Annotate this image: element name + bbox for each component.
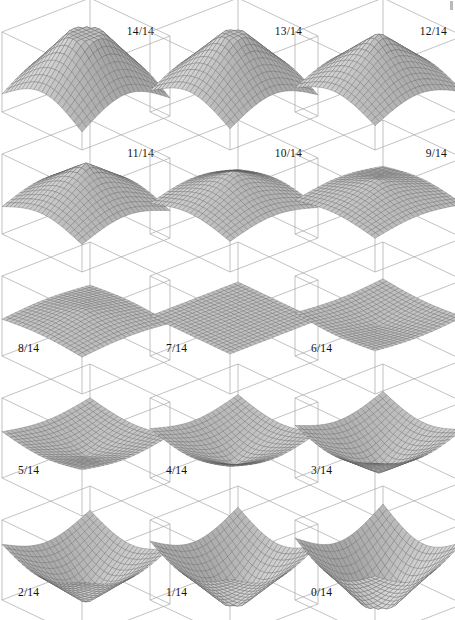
panel-label: 9/14 <box>426 148 447 160</box>
corner-artifact <box>450 1 453 10</box>
surface-panel: 7/14 <box>160 252 308 376</box>
panel-label: 6/14 <box>311 343 332 355</box>
surface-panel: 11/14 <box>12 130 160 254</box>
surface-plot <box>305 374 453 498</box>
surface-mesh <box>150 30 318 129</box>
surface-panel: 13/14 <box>160 8 308 132</box>
surface-mesh <box>295 166 455 238</box>
panel-label: 2/14 <box>18 587 39 599</box>
surface-plot <box>160 252 308 376</box>
surface-mesh <box>150 169 318 241</box>
surface-panel: 3/14 <box>305 374 453 498</box>
surface-panel: 2/14 <box>12 496 160 620</box>
surface-plot <box>12 374 160 498</box>
surface-grid-figure: 14/1413/1412/1411/1410/149/148/147/146/1… <box>0 0 455 620</box>
surface-plot <box>12 252 160 376</box>
panel-label: 12/14 <box>420 26 447 38</box>
surface-mesh <box>150 395 318 467</box>
surface-mesh <box>295 279 455 351</box>
surface-panel: 14/14 <box>12 8 160 132</box>
panel-label: 7/14 <box>166 343 187 355</box>
surface-panel: 8/14 <box>12 252 160 376</box>
surface-panel: 6/14 <box>305 252 453 376</box>
panel-label: 10/14 <box>275 148 302 160</box>
surface-panel: 9/14 <box>305 130 453 254</box>
surface-plot <box>12 496 160 620</box>
surface-mesh <box>295 391 455 473</box>
surface-panel: 5/14 <box>12 374 160 498</box>
surface-panel: 10/14 <box>160 130 308 254</box>
panel-label: 3/14 <box>311 465 332 477</box>
panel-label: 8/14 <box>18 343 39 355</box>
panel-label: 1/14 <box>166 587 187 599</box>
surface-plot <box>160 374 308 498</box>
surface-panel: 1/14 <box>160 496 308 620</box>
surface-plot <box>305 252 453 376</box>
surface-plot <box>305 496 453 620</box>
surface-panel: 12/14 <box>305 8 453 132</box>
surface-panel: 0/14 <box>305 496 453 620</box>
surface-plot <box>160 496 308 620</box>
surface-mesh <box>2 163 170 245</box>
surface-mesh <box>2 398 170 470</box>
surface-panel: 4/14 <box>160 374 308 498</box>
panel-label: 0/14 <box>311 587 332 599</box>
panel-label: 4/14 <box>166 465 187 477</box>
panel-label: 5/14 <box>18 465 39 477</box>
surface-mesh <box>2 27 170 132</box>
panel-label: 13/14 <box>275 26 302 38</box>
surface-mesh <box>295 34 455 126</box>
